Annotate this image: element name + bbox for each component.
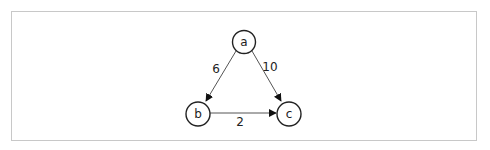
node-c: c xyxy=(277,102,301,126)
edge-a-b xyxy=(206,51,236,101)
node-b: b xyxy=(186,102,210,126)
node-a-label: a xyxy=(240,35,247,49)
graph-canvas: 6 10 2 a b c xyxy=(0,0,490,150)
node-a: a xyxy=(233,31,256,54)
node-b-label: b xyxy=(194,107,202,121)
edge-weight-b-c: 2 xyxy=(236,115,244,129)
edge-weight-a-c: 10 xyxy=(262,60,277,74)
edge-a-c xyxy=(252,51,281,101)
node-c-label: c xyxy=(286,107,293,121)
edge-weight-a-b: 6 xyxy=(212,62,220,76)
